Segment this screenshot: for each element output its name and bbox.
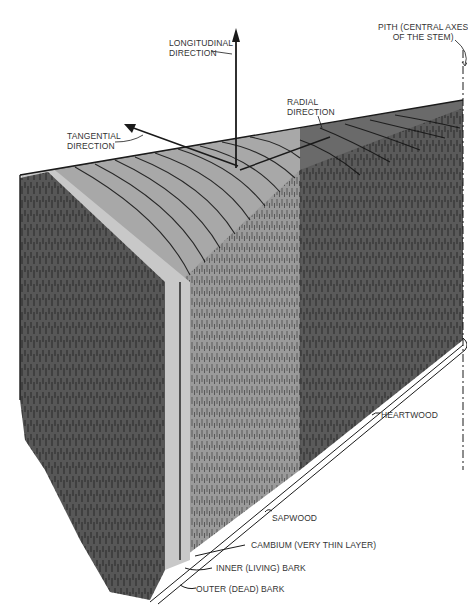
label-line: LONGITUDINAL — [169, 38, 233, 48]
label-line: PITH (CENTRAL AXES — [378, 22, 468, 32]
label-cambium: CAMBIUM (VERY THIN LAYER) — [251, 540, 376, 550]
label-pith: PITH (CENTRAL AXES OF THE STEM) — [378, 22, 468, 42]
label-line: DIRECTION — [67, 141, 121, 151]
label-line: RADIAL — [287, 97, 335, 107]
label-line: DIRECTION — [169, 48, 233, 58]
label-heartwood: HEARTWOOD — [381, 410, 438, 420]
label-line: OF THE STEM) — [378, 32, 468, 42]
label-outer-bark: OUTER (DEAD) BARK — [196, 584, 285, 594]
label-line: TANGENTIAL — [67, 131, 121, 141]
label-inner-bark: INNER (LIVING) BARK — [216, 563, 306, 573]
label-line: DIRECTION — [287, 107, 335, 117]
label-tangential-direction: TANGENTIAL DIRECTION — [67, 131, 121, 151]
label-radial-direction: RADIAL DIRECTION — [287, 97, 335, 117]
label-sapwood: SAPWOOD — [272, 513, 317, 523]
label-longitudinal-direction: LONGITUDINAL DIRECTION — [169, 38, 233, 58]
